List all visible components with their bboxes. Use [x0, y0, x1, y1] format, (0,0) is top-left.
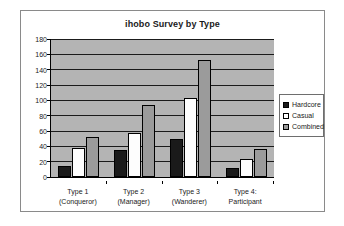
chart-legend: HardcoreCasualCombined — [279, 94, 324, 137]
x-axis-tick-mark — [162, 181, 163, 184]
y-axis-tick-label: 20 — [39, 158, 47, 165]
legend-label: Combined — [292, 123, 324, 130]
legend-label: Hardcore — [292, 101, 321, 108]
legend-label: Casual — [292, 112, 314, 119]
bar-combined[interactable] — [254, 149, 267, 177]
bar-group — [218, 39, 274, 177]
x-axis-tick-label-line: Type 2 — [117, 187, 149, 197]
y-axis-tick-label: 80 — [39, 112, 47, 119]
x-axis-tick-label-line: (Wanderer) — [172, 197, 207, 207]
y-axis-tick-label: 40 — [39, 143, 47, 150]
y-axis-tick-label: 60 — [39, 128, 47, 135]
x-axis-tick-label-line: Type 1 — [59, 187, 97, 197]
bar-combined[interactable] — [86, 137, 99, 177]
x-axis-tick-label: Type 1(Conqueror) — [59, 187, 97, 206]
bar-group — [107, 39, 163, 177]
plot-area — [50, 39, 274, 178]
x-axis-tick-label: Type 4:Participant — [229, 187, 262, 206]
y-axis-tick-label: 140 — [35, 66, 47, 73]
chart-card: ihobo Survey by Type 0204060801001201401… — [20, 10, 325, 212]
y-axis-tick-label: 120 — [35, 82, 47, 89]
bar-casual[interactable] — [128, 133, 141, 177]
x-axis-tick-mark — [217, 181, 218, 184]
x-axis-tick-label-line: (Conqueror) — [59, 197, 97, 207]
bar-combined[interactable] — [142, 105, 155, 177]
legend-item[interactable]: Combined — [283, 121, 319, 132]
bar-hardcore[interactable] — [114, 150, 127, 177]
x-axis: Type 1(Conqueror)Type 2(Manager)Type 3(W… — [50, 181, 273, 211]
x-axis-tick-label: Type 3(Wanderer) — [172, 187, 207, 206]
bar-casual[interactable] — [240, 159, 253, 177]
bar-hardcore[interactable] — [170, 139, 183, 177]
chart-title: ihobo Survey by Type — [21, 19, 324, 29]
y-axis-tick-label: 100 — [35, 97, 47, 104]
legend-swatch-hardcore-icon — [283, 102, 289, 108]
x-axis-tick-label-line: (Manager) — [117, 197, 149, 207]
bar-hardcore[interactable] — [58, 166, 71, 178]
bar-group — [163, 39, 219, 177]
x-axis-tick-label-line: Participant — [229, 197, 262, 207]
y-axis-tick-label: 160 — [35, 51, 47, 58]
bar-casual[interactable] — [72, 148, 85, 177]
legend-item[interactable]: Hardcore — [283, 99, 319, 110]
bar-hardcore[interactable] — [226, 168, 239, 177]
legend-swatch-casual-icon — [283, 113, 289, 119]
x-axis-tick-label-line: Type 3 — [172, 187, 207, 197]
x-axis-tick-mark — [106, 181, 107, 184]
legend-item[interactable]: Casual — [283, 110, 319, 121]
bar-combined[interactable] — [198, 60, 211, 177]
bar-group — [51, 39, 107, 177]
x-axis-tick-label-line: Type 4: — [229, 187, 262, 197]
x-axis-tick-label: Type 2(Manager) — [117, 187, 149, 206]
y-axis: 020406080100120140160180 — [26, 39, 47, 177]
legend-swatch-combined-icon — [283, 124, 289, 130]
y-axis-tick-label: 180 — [35, 36, 47, 43]
bar-casual[interactable] — [184, 98, 197, 177]
x-axis-tick-mark — [273, 181, 274, 184]
